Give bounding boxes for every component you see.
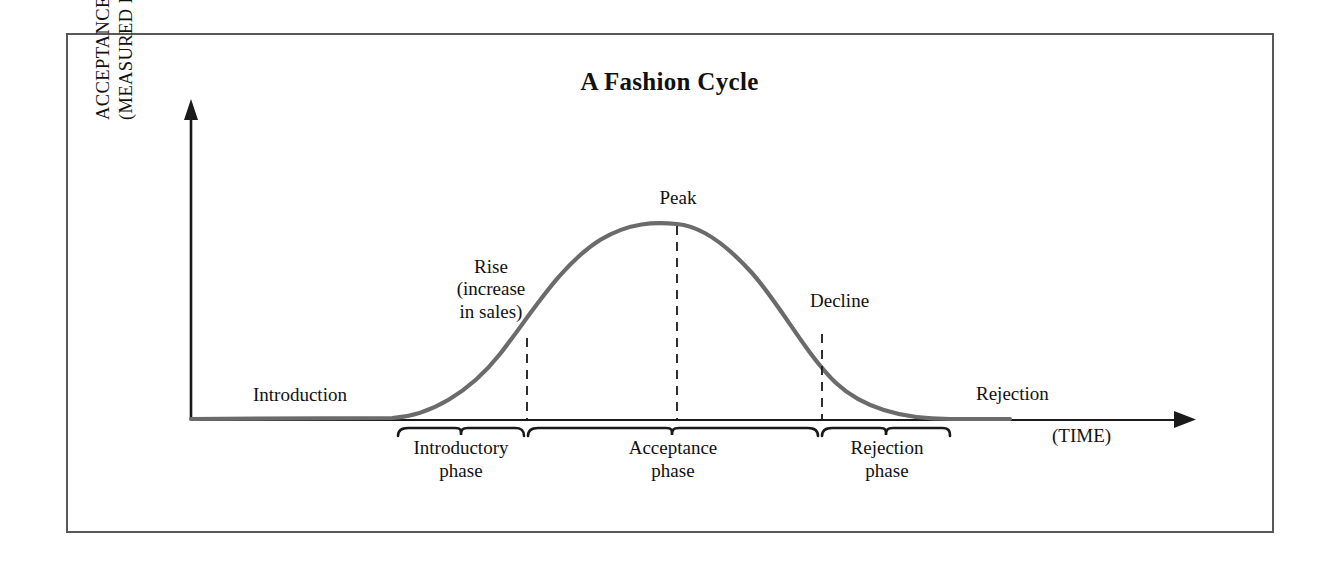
x-axis-label: (TIME) bbox=[1052, 425, 1111, 447]
x-axis-arrowhead-icon bbox=[1174, 411, 1196, 428]
fashion-cycle-figure: A Fashion Cycle ACCEPTANCE (MEASURED IN … bbox=[0, 0, 1339, 564]
phase-label-rejection-line2: phase bbox=[820, 460, 954, 483]
phase-label-rejection-line1: Rejection bbox=[820, 437, 954, 460]
label-rise-line2: (increase bbox=[457, 278, 526, 299]
phase-label-introductory-line2: phase bbox=[388, 460, 534, 483]
label-decline: Decline bbox=[810, 290, 869, 312]
phase-label-acceptance-line1: Acceptance bbox=[595, 437, 751, 460]
label-peak: Peak bbox=[620, 187, 736, 209]
label-rise-line1: Rise bbox=[474, 256, 508, 277]
phase-label-introductory: Introductory phase bbox=[388, 437, 534, 483]
bracket-introductory-phase bbox=[398, 428, 524, 436]
label-rise-line3: in sales) bbox=[460, 301, 523, 322]
bracket-rejection-phase bbox=[822, 428, 950, 436]
label-introduction: Introduction bbox=[253, 384, 347, 406]
bracket-acceptance-phase bbox=[528, 428, 818, 436]
phase-label-acceptance: Acceptance phase bbox=[595, 437, 751, 483]
phase-label-introductory-line1: Introductory bbox=[388, 437, 534, 460]
phase-label-acceptance-line2: phase bbox=[595, 460, 751, 483]
y-axis-arrowhead-icon bbox=[184, 99, 198, 120]
label-rise: Rise (increase in sales) bbox=[426, 256, 556, 323]
label-rejection: Rejection bbox=[976, 383, 1049, 405]
phase-label-rejection: Rejection phase bbox=[820, 437, 954, 483]
